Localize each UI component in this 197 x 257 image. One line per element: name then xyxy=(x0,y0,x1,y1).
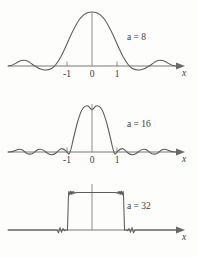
parameter-label-a32: a = 32 xyxy=(127,201,151,211)
figure-container: -1 0 1 x a = 8 -1 0 1 x a = 16 xyxy=(0,0,197,257)
x-tick-label-pos1: 1 xyxy=(115,69,120,79)
parameter-label-a8: a = 8 xyxy=(127,32,146,42)
x-tick-label-zero: 0 xyxy=(90,69,95,79)
x-axis-label: x xyxy=(181,68,187,78)
x-axis-label: x xyxy=(181,232,187,242)
x-tick-label-pos1: 1 xyxy=(115,155,120,165)
x-tick-label-neg1: -1 xyxy=(63,155,71,165)
x-axis-label: x xyxy=(181,154,187,164)
x-tick-label-zero: 0 xyxy=(90,155,95,165)
plot-svg-a8: -1 0 1 x a = 8 xyxy=(0,0,197,86)
plot-svg-a32: x a = 32 xyxy=(0,172,197,257)
plot-svg-a16: -1 0 1 x a = 16 xyxy=(0,86,197,172)
parameter-label-a16: a = 16 xyxy=(127,119,151,129)
plot-panel-a16: -1 0 1 x a = 16 xyxy=(0,86,197,172)
plot-panel-a32: x a = 32 xyxy=(0,172,197,257)
x-tick-label-neg1: -1 xyxy=(63,69,71,79)
plot-panel-a8: -1 0 1 x a = 8 xyxy=(0,0,197,86)
